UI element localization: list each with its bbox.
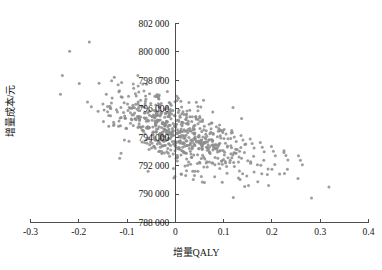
x-tick-label: -0.2 <box>71 227 86 237</box>
y-tick-label: 798 000 <box>138 76 169 86</box>
x-tick-label: -0.1 <box>120 227 135 237</box>
x-axis-title-label: 增量QALY <box>173 244 220 259</box>
data-points-layer <box>59 40 330 199</box>
y-tick-label: 796 000 <box>138 104 169 114</box>
y-tick-label: 792 000 <box>138 161 169 171</box>
x-tick-label: 0.2 <box>266 227 278 237</box>
x-tick-label: 0.4 <box>363 227 375 237</box>
y-tick-label: 788 000 <box>138 218 169 228</box>
plot-area: -0.3-0.2-0.100.10.20.30.4788 000790 0007… <box>0 0 382 270</box>
x-axis-title: 增量QALY <box>0 244 382 259</box>
axes-layer <box>31 24 369 223</box>
y-tick-label: 790 000 <box>138 189 169 199</box>
scatter-chart: 增量成本/元 -0.3-0.2-0.100.10.20.30.4788 0007… <box>0 0 382 270</box>
x-tick-label: -0.3 <box>23 227 38 237</box>
y-tick-label: 802 000 <box>138 19 169 29</box>
x-tick-label: 0 <box>173 227 178 237</box>
y-tick-label: 800 000 <box>138 47 169 57</box>
x-tick-label: 0.3 <box>314 227 326 237</box>
x-tick-label: 0.1 <box>218 227 230 237</box>
y-tick-label: 794 000 <box>138 133 169 143</box>
